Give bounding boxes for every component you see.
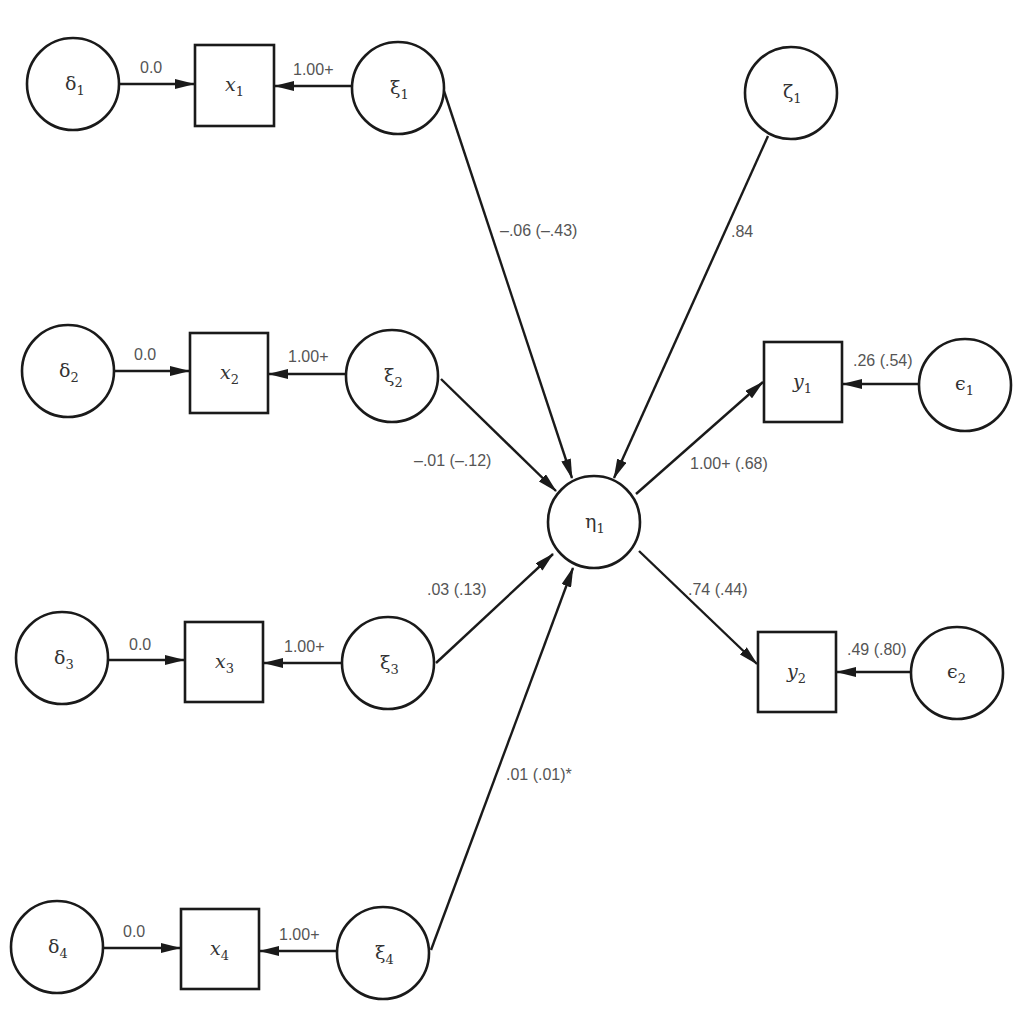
node-y2: y2 [758, 632, 836, 712]
node-xi1: ξ1 [352, 42, 444, 134]
label-eps2-y2: .49 (.80) [847, 641, 907, 658]
edge-xi2-eta1 [441, 379, 556, 491]
label-xi3-x3: 1.00+ [284, 638, 324, 655]
sem-path-diagram: 0.0 1.00+ 0.0 1.00+ 0.0 1.00+ 0.0 1.00+ … [0, 0, 1035, 1024]
label-zeta1-eta1: .84 [731, 223, 753, 240]
label-xi4-eta1: .01 (.01)* [506, 766, 572, 783]
node-x3: x3 [185, 622, 263, 702]
node-eta1: η1 [548, 476, 640, 568]
edges [103, 84, 918, 951]
edge-labels: 0.0 1.00+ 0.0 1.00+ 0.0 1.00+ 0.0 1.00+ … [123, 59, 913, 943]
node-delta3: δ3 [16, 612, 108, 704]
node-xi2: ξ2 [346, 330, 438, 422]
edge-eta1-y1 [636, 382, 763, 494]
label-eps1-y1: .26 (.54) [853, 352, 913, 369]
node-xi4: ξ4 [337, 907, 429, 999]
node-eps1: ϵ1 [919, 339, 1011, 431]
label-delta1-x1: 0.0 [140, 59, 162, 76]
label-xi3-eta1: .03 (.13) [427, 581, 487, 598]
label-xi1-x1: 1.00+ [293, 61, 333, 78]
node-y1: y1 [764, 342, 842, 422]
edge-zeta1-eta1 [614, 136, 768, 478]
label-xi2-x2: 1.00+ [288, 348, 328, 365]
label-xi4-x4: 1.00+ [279, 926, 319, 943]
node-delta2: δ2 [22, 325, 114, 417]
edge-xi3-eta1 [436, 554, 553, 663]
node-eps2: ϵ2 [911, 627, 1003, 719]
label-xi1-eta1: –.06 (–.43) [500, 222, 577, 239]
label-eta1-y2: .74 (.44) [688, 581, 748, 598]
node-x2: x2 [190, 333, 268, 413]
edge-eta1-y2 [639, 551, 757, 664]
edge-xi1-eta1 [444, 91, 572, 478]
edge-xi4-eta1 [431, 568, 573, 950]
label-delta2-x2: 0.0 [134, 346, 156, 363]
label-delta3-x3: 0.0 [129, 636, 151, 653]
node-xi3: ξ3 [342, 617, 434, 709]
node-delta1: δ1 [27, 38, 119, 130]
node-zeta1: ζ1 [745, 47, 837, 139]
label-eta1-y1: 1.00+ (.68) [690, 455, 768, 472]
node-x1: x1 [195, 45, 274, 126]
label-delta4-x4: 0.0 [123, 923, 145, 940]
node-delta4: δ4 [11, 901, 103, 993]
label-xi2-eta1: –.01 (–.12) [414, 452, 491, 469]
node-x4: x4 [181, 909, 259, 989]
